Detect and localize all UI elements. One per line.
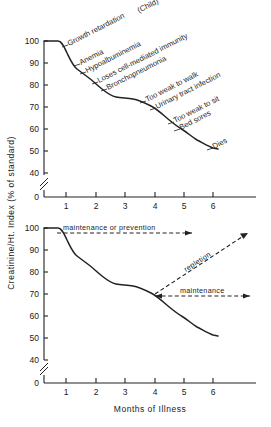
bottom-ytick-label-40: 40	[30, 355, 40, 365]
bottom-ytick-label-90: 90	[30, 245, 40, 255]
label-maintenance-or-prevention: maintenance or prevention	[63, 223, 156, 232]
bottom-xtick-label-5: 5	[182, 387, 187, 397]
leader-dies	[207, 148, 213, 150]
maintenance-or-prevention-arrowhead	[185, 231, 192, 236]
bottom-axis-break-1	[40, 363, 48, 371]
bottom-ytick-label-0: 0	[34, 378, 39, 388]
top-xtick-label-5: 5	[182, 201, 187, 211]
top-axis-break-1	[40, 178, 48, 186]
annotation-child: (Child)	[136, 0, 160, 15]
annotation-growth-retardation: Growth retardation	[66, 11, 126, 48]
bottom-xtick-label-3: 3	[123, 387, 128, 397]
top-ytick-label-70: 70	[30, 102, 40, 112]
chart-canvas: 100 90 80 70 60 50 40 0 1 2 3 4 5 6	[0, 0, 271, 427]
leader-anemia	[74, 64, 80, 66]
top-decline-curve	[44, 41, 218, 149]
bottom-decline-curve	[44, 228, 218, 336]
bottom-xtick-label-4: 4	[153, 387, 158, 397]
bottom-ytick-label-60: 60	[30, 311, 40, 321]
bottom-ytick-label-80: 80	[30, 267, 40, 277]
annotation-dies: Dies	[211, 136, 229, 151]
label-repletion: repletion	[182, 250, 212, 274]
top-panel: 100 90 80 70 60 50 40 0 1 2 3 4 5 6	[25, 0, 256, 211]
top-ytick-label-40: 40	[30, 168, 40, 178]
bottom-xtick-label-6: 6	[211, 387, 216, 397]
top-ytick-label-100: 100	[25, 36, 39, 46]
bottom-xtick-label-1: 1	[64, 387, 69, 397]
bottom-ytick-label-50: 50	[30, 333, 40, 343]
top-xtick-label-3: 3	[123, 201, 128, 211]
top-xtick-label-6: 6	[211, 201, 216, 211]
bottom-panel: 100 90 80 70 60 50 40 0 1 2 3 4 5 6 main…	[25, 223, 256, 414]
label-maintenance: maintenance	[180, 286, 224, 295]
top-ytick-label-50: 50	[30, 146, 40, 156]
x-axis-title: Months of Illness	[114, 404, 186, 414]
bottom-axis-break-2	[40, 367, 48, 375]
top-ytick-label-0: 0	[34, 192, 39, 202]
bottom-ytick-label-100: 100	[25, 223, 39, 233]
top-axis-break-2	[40, 182, 48, 190]
maintenance-arrowhead	[243, 294, 250, 299]
top-xtick-label-2: 2	[94, 201, 99, 211]
bottom-ytick-label-70: 70	[30, 289, 40, 299]
top-ytick-label-80: 80	[30, 80, 40, 90]
figure-container: 100 90 80 70 60 50 40 0 1 2 3 4 5 6	[0, 0, 271, 427]
top-xtick-label-1: 1	[64, 201, 69, 211]
y-axis-title: Creatinine/Ht. Index (% of standard)	[6, 136, 16, 290]
top-ytick-label-60: 60	[30, 124, 40, 134]
leader-bed-sores	[174, 129, 180, 131]
bottom-xtick-label-2: 2	[94, 387, 99, 397]
top-xtick-label-4: 4	[153, 201, 158, 211]
top-ytick-label-90: 90	[30, 58, 40, 68]
